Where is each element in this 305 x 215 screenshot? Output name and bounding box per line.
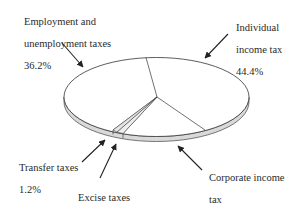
arrow-excise (100, 144, 116, 178)
label-corporate-line1: Corporate income (209, 172, 285, 183)
label-individual-line2: income tax (236, 44, 282, 55)
label-individual-pct: 44.4% (236, 66, 282, 77)
label-corporate: Corporate income tax 15.7% (209, 161, 285, 215)
label-excise: Excise taxes 2.5% (78, 181, 130, 215)
label-employment-line2: unemployment taxes (24, 38, 111, 49)
label-corporate-line2: tax (209, 194, 285, 205)
label-excise-line1: Excise taxes (78, 192, 130, 203)
label-transfer-pct: 1.2% (19, 184, 78, 195)
label-transfer-line1: Transfer taxes (19, 162, 78, 173)
arrow-individual (205, 34, 228, 58)
label-employment-pct: 36.2% (24, 60, 111, 71)
label-individual: Individual income tax 44.4% (236, 11, 282, 88)
arrow-transfer (82, 140, 105, 162)
arrow-corporate (178, 146, 202, 170)
label-individual-line1: Individual (236, 22, 282, 33)
label-employment: Employment and unemployment taxes 36.2% (24, 5, 111, 82)
label-transfer: Transfer taxes 1.2% (19, 151, 78, 206)
label-excise-pct: 2.5% (78, 214, 130, 215)
label-employment-line1: Employment and (24, 16, 111, 27)
